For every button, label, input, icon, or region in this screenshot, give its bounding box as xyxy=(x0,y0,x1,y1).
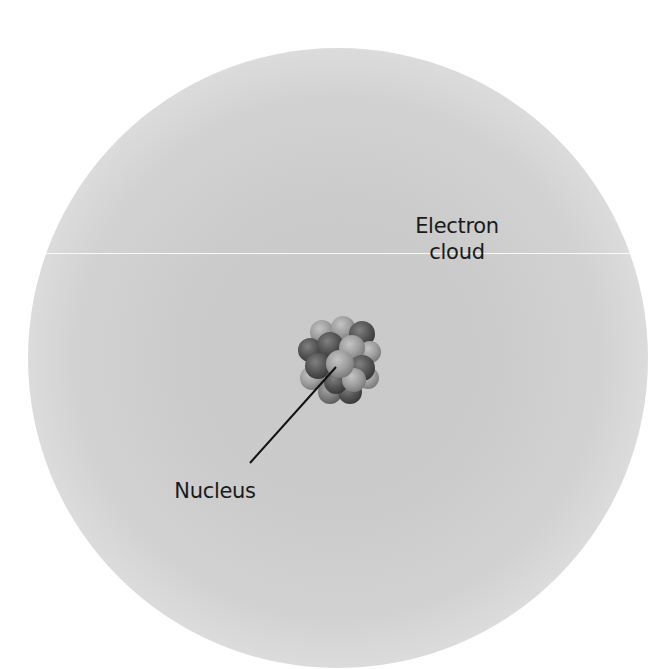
electron-cloud-label: Electron cloud xyxy=(402,213,512,265)
electron-cloud-label-line1: Electron xyxy=(402,213,512,239)
electron-cloud-label-line2: cloud xyxy=(402,239,512,265)
nucleus-leader-line xyxy=(250,367,336,463)
nucleus xyxy=(298,316,381,404)
nucleus-label: Nucleus xyxy=(160,478,270,504)
